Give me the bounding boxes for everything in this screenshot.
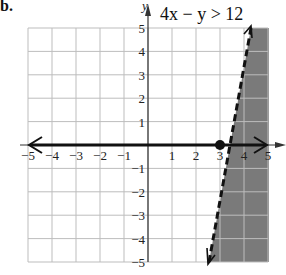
x-tick-label: −5 bbox=[21, 148, 35, 163]
x-tick-label: −1 bbox=[117, 148, 131, 163]
y-tick-label: 2 bbox=[139, 91, 146, 106]
y-tick-label: 3 bbox=[139, 68, 146, 83]
x-tick-label: 3 bbox=[217, 148, 224, 163]
x-tick-label: −3 bbox=[69, 148, 83, 163]
y-tick-label: −4 bbox=[131, 232, 145, 247]
y-axis-label: y bbox=[140, 0, 148, 13]
x-axis-arrow-icon bbox=[275, 142, 286, 148]
y-tick-label: −2 bbox=[131, 185, 145, 200]
y-tick-label: −1 bbox=[131, 161, 145, 176]
y-tick-label: 1 bbox=[139, 115, 146, 130]
y-tick-label: 5 bbox=[139, 21, 146, 36]
x-tick-label: 4 bbox=[241, 148, 248, 163]
x-tick-label: −2 bbox=[93, 148, 107, 163]
problem-marker: b. bbox=[0, 0, 13, 14]
x-tick-label: 5 bbox=[265, 148, 272, 163]
y-tick-label: 4 bbox=[139, 44, 146, 59]
y-tick-label: −3 bbox=[131, 208, 145, 223]
inequality-graph: b. y −5−4−3−2−112345 54321−1−2−3−4−5 4x … bbox=[0, 0, 286, 275]
chart-title: 4x − y > 12 bbox=[160, 4, 243, 24]
x-tick-label: 1 bbox=[169, 148, 176, 163]
x-tick-label: 2 bbox=[193, 148, 200, 163]
y-tick-label: −5 bbox=[131, 255, 145, 270]
x-tick-label: −4 bbox=[45, 148, 59, 163]
